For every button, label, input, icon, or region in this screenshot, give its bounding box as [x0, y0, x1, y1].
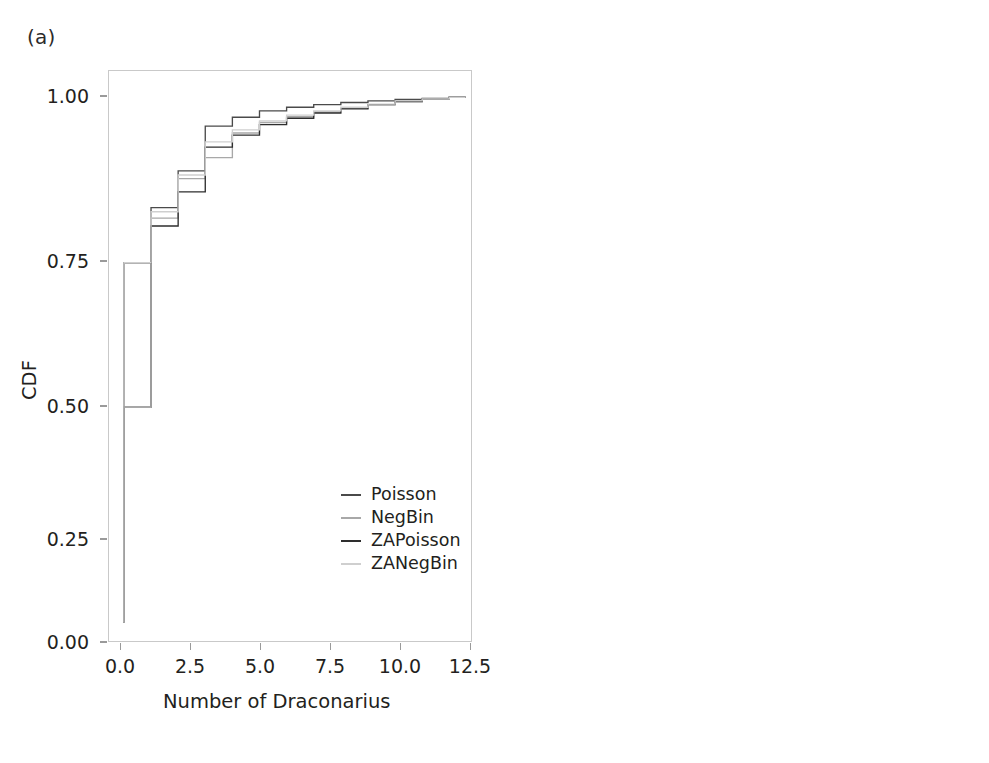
panel-a-ytick-mark-1: [100, 538, 107, 540]
panel-a-ytick-1: 0.25: [27, 528, 89, 550]
panel-b-qq: (b) 0.0 2.5 5.0 7.5 10.0 12.5 0 5 10 15 …: [505, 0, 989, 763]
legend-item-zapoisson[interactable]: ZAPoisson: [340, 529, 461, 552]
panel-a-ytick-3: 0.75: [27, 250, 89, 272]
panel-a-ytick-mark-4: [100, 95, 107, 97]
panel-a-xtick-mark-5: [470, 643, 472, 650]
panel-a-xtick-3: 7.5: [315, 655, 345, 677]
panel-a-xtick-1: 2.5: [175, 655, 205, 677]
legend-line-icon: [340, 563, 362, 565]
legend-label: ZAPoisson: [371, 532, 461, 550]
panel-a-ytick-4: 1.00: [27, 85, 89, 107]
legend-line-icon: [340, 517, 362, 519]
legend-label: Poisson: [371, 486, 437, 504]
panel-a-cdf: (a) 0.00 0.25 0.50 0.75 1.00 0.0 2.5 5.0…: [0, 0, 510, 763]
panel-a-xtick-mark-1: [190, 643, 192, 650]
panel-a-xtick-mark-0: [120, 643, 122, 650]
panel-a-ytick-mark-2: [100, 405, 107, 407]
panel-a-xtick-mark-2: [260, 643, 262, 650]
panel-a-xaxis-title: Number of Draconarius: [163, 690, 390, 713]
panel-a-label: (a): [27, 25, 55, 49]
legend-label: ZANegBin: [371, 555, 458, 573]
panel-a-ytick-mark-0: [100, 641, 107, 643]
panel-a-legend: PoissonNegBinZAPoissonZANegBin: [340, 483, 461, 575]
panel-a-xtick-2: 5.0: [245, 655, 275, 677]
panel-a-ytick-0: 0.00: [27, 631, 89, 653]
legend-item-zanegbin[interactable]: ZANegBin: [340, 552, 461, 575]
legend-line-icon: [340, 494, 362, 496]
figure-container: (a) 0.00 0.25 0.50 0.75 1.00 0.0 2.5 5.0…: [0, 0, 989, 763]
panel-a-ytick-mark-3: [100, 260, 107, 262]
panel-a-yaxis-title: CDF: [18, 360, 41, 400]
panel-a-xtick-0: 0.0: [105, 655, 135, 677]
legend-line-icon: [340, 540, 362, 542]
panel-a-xtick-4: 10.0: [379, 655, 421, 677]
legend-item-poisson[interactable]: Poisson: [340, 483, 461, 506]
legend-item-negbin[interactable]: NegBin: [340, 506, 461, 529]
panel-a-xtick-mark-3: [330, 643, 332, 650]
panel-a-xtick-mark-4: [400, 643, 402, 650]
panel-a-xtick-5: 12.5: [449, 655, 491, 677]
legend-label: NegBin: [371, 509, 434, 527]
